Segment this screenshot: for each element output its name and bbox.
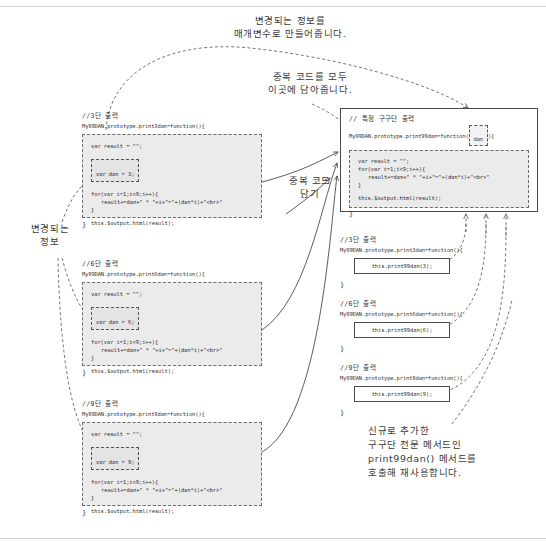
diagram-canvas: 변경되는 정보를 매개변수로 만들어줍니다. 중복 코드를 모두 이곳에 담아줍… (0, 0, 546, 551)
code-block-print3dan: //3단 출력 My99DAN.prototype.print3dan=func… (82, 112, 272, 229)
code-line-for-close: } (91, 494, 253, 502)
code-line-for: for(var i=1;i<9;i++){ (91, 338, 253, 346)
arrow-block3-to-main (262, 176, 337, 452)
code-block-print6dan: //6단 출력 My99DAN.prototype.print6dan=func… (82, 260, 272, 377)
code-body-highlight: var result = ""; var dan = 6; for(var i=… (82, 282, 262, 366)
main-code-body-highlight: var result = ""; for(var i=1;i<9;i++){ r… (349, 150, 529, 208)
code-line-body: result+=dan+" * "+i+"="+(dan*i)+"<br>" (91, 486, 253, 494)
code-line-dan-highlight: var dan = 3; (91, 159, 139, 182)
code-line-for: for(var i=1;i<9;i++){ (91, 478, 253, 486)
main-code-param-highlight: dan (469, 125, 488, 146)
main-code-close-brace: } (349, 210, 529, 218)
call-statement: this.print99dan(6); (372, 326, 433, 334)
code-comment: //6단 출력 (82, 260, 272, 268)
code-line-dan-highlight: var dan = 6; (91, 307, 139, 330)
annotation-duplicate-all: 중복 코드를 모두 이곳에 담아줍니다. (240, 70, 380, 96)
main-code-line-for-close: } (358, 181, 520, 189)
code-line-for: for(var i=1;i<9;i++){ (91, 190, 253, 198)
code-comment: //3단 출력 (82, 112, 272, 120)
code-line-result: var result = ""; (91, 290, 253, 298)
annotation-changing-info: 변경되는 정보 (20, 222, 80, 248)
main-code-param: dan (474, 136, 483, 142)
annotation-top: 변경되는 정보를 매개변수로 만들어줍니다. (210, 14, 370, 40)
main-code-comment: // 특정 구구단 출력 (349, 115, 529, 123)
call-statement-box: this.print99dan(9); (354, 386, 450, 402)
call-comment: //9단 출력 (340, 364, 520, 372)
code-block-print9dan: //9단 출력 My99DAN.prototype.print9dan=func… (82, 400, 272, 517)
annotation-bottom-right: 신규로 추가한 구구단 전문 메서드인 print99dan() 메서드를 호출… (368, 424, 538, 480)
code-body-highlight: var result = ""; var dan = 9; for(var i=… (82, 422, 262, 506)
call-close-brace: } (340, 409, 520, 417)
call-block-print6dan: //6단 출력 My99DAN.prototype.print6dan=func… (340, 300, 520, 353)
code-line-for-close: } (91, 354, 253, 362)
code-body-highlight: var result = ""; var dan = 3; for(var i=… (82, 134, 262, 218)
main-code-line-result: var result = ""; (358, 157, 520, 165)
code-line-dan: var dan = 6; (96, 319, 134, 325)
call-statement-box: this.print99dan(3); (354, 258, 450, 274)
main-code-signature-prefix: My99DAN.prototype.print99dan=function( (349, 132, 469, 140)
code-signature: My99DAN.prototype.print9dan=function(){ (82, 410, 272, 418)
code-line-dan: var dan = 9; (96, 459, 134, 465)
code-line-result: var result = ""; (91, 142, 253, 150)
code-line-dan: var dan = 3; (96, 171, 134, 177)
code-line-body: result+=dan+" * "+i+"="+(dan*i)+"<br>" (91, 198, 253, 206)
call-statement-box: this.print99dan(6); (354, 322, 450, 338)
code-line-body: result+=dan+" * "+i+"="+(dan*i)+"<br>" (91, 346, 253, 354)
code-comment: //9단 출력 (82, 400, 272, 408)
call-signature: My99DAN.prototype.print6dan=function(){ (340, 310, 520, 318)
call-signature: My99DAN.prototype.print3dan=function(){ (340, 246, 520, 254)
main-code-box-print99dan: // 특정 구구단 출력 My99DAN.prototype.print99da… (340, 108, 538, 212)
page-rule-top (0, 6, 546, 7)
code-line-for-close: } (91, 206, 253, 214)
main-code-line-output: this.$output.html(result); (358, 194, 520, 202)
call-block-print9dan: //9단 출력 My99DAN.prototype.print9dan=func… (340, 364, 520, 417)
code-signature: My99DAN.prototype.print3dan=function(){ (82, 122, 272, 130)
code-line-result: var result = ""; (91, 430, 253, 438)
page-rule-bottom (0, 538, 546, 539)
call-block-print3dan: //3단 출력 My99DAN.prototype.print3dan=func… (340, 236, 520, 289)
annotation-duplicate-put: 중복 코드 담기 (275, 174, 345, 200)
call-signature: My99DAN.prototype.print9dan=function(){ (340, 374, 520, 382)
call-comment: //6단 출력 (340, 300, 520, 308)
main-code-signature-suffix: ){ (488, 132, 494, 140)
call-statement: this.print99dan(9); (372, 390, 433, 398)
code-line-dan-highlight: var dan = 9; (91, 447, 139, 470)
main-code-line-body: result+=dan+" * "+i+"="+(dan*i)+"<br>" (358, 173, 520, 181)
call-close-brace: } (340, 281, 520, 289)
main-code-line-for: for(var i=1;i<9;i++){ (358, 165, 520, 173)
call-comment: //3단 출력 (340, 236, 520, 244)
call-close-brace: } (340, 345, 520, 353)
call-statement: this.print99dan(3); (372, 262, 433, 270)
code-signature: My99DAN.prototype.print6dan=function(){ (82, 270, 272, 278)
